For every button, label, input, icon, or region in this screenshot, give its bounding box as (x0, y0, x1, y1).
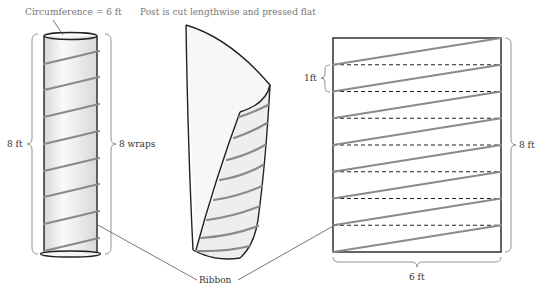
wraps-label: 8 wraps (119, 139, 156, 149)
wraps-brace-right (105, 34, 116, 254)
ribbon-leader-left (98, 225, 197, 280)
peeled-post (186, 25, 270, 259)
band-height-label: 1ft (304, 73, 317, 83)
width-brace-bottom (333, 257, 501, 267)
caption-label: Post is cut lengthwise and pressed flat (140, 7, 316, 17)
circumference-label: Circumference = 6 ft (25, 7, 122, 17)
width-bottom-label: 6 ft (409, 272, 425, 282)
cylinder-post (27, 20, 116, 257)
post-ribbon-diagram: Circumference = 6 ft Post is cut lengthw… (0, 0, 540, 292)
height-right-label: 8 ft (519, 140, 535, 150)
flattened-post (321, 38, 516, 267)
cylinder-base-ellipse (41, 251, 101, 257)
dashed-band-lines (333, 65, 501, 226)
height-brace-right (505, 38, 516, 252)
height-brace-left (27, 34, 38, 254)
ribbon-label: Ribbon (199, 275, 232, 285)
band-brace (321, 65, 330, 92)
height-left-label: 8 ft (7, 139, 23, 149)
